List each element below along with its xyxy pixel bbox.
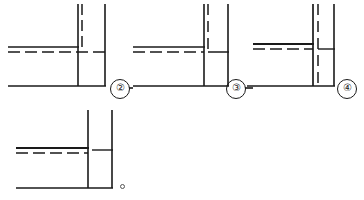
figure-label-4: ④ bbox=[337, 79, 357, 99]
drawing-canvas: Technical line drawings — four junction … bbox=[0, 0, 364, 200]
figure-label-2: ② bbox=[110, 79, 130, 99]
figure-4-lines bbox=[16, 110, 113, 188]
figure-3-lines bbox=[247, 4, 335, 86]
tiny-circle-mark bbox=[120, 184, 125, 189]
figure-2-lines bbox=[133, 4, 229, 86]
figure-1-group: ② ③ ④ bbox=[0, 0, 364, 200]
figure-1-drawing bbox=[0, 0, 364, 200]
figure-label-3: ③ bbox=[226, 79, 246, 99]
figure-1-lines bbox=[8, 4, 110, 86]
